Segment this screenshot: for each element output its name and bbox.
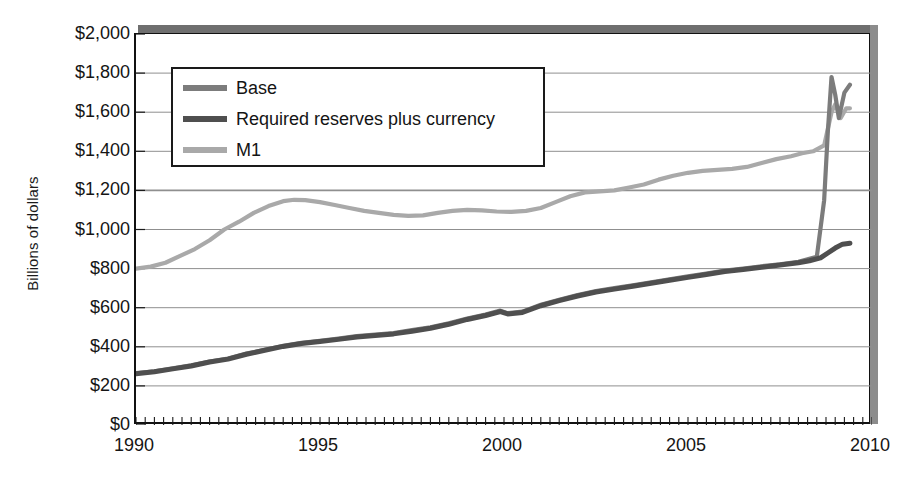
legend-item: M1 bbox=[183, 138, 261, 162]
legend-label: Base bbox=[236, 79, 277, 97]
legend-color-swatch bbox=[183, 85, 227, 91]
legend-label: M1 bbox=[236, 141, 261, 159]
legend-item: Required reserves plus currency bbox=[183, 107, 495, 131]
chart-figure: Billions of dollars $0$200$400$600$800$1… bbox=[0, 0, 903, 482]
legend-color-swatch bbox=[183, 116, 227, 122]
legend-item: Base bbox=[183, 76, 277, 100]
legend-label: Required reserves plus currency bbox=[236, 110, 495, 128]
legend-color-swatch bbox=[183, 147, 227, 153]
x-tick-label: 2005 bbox=[651, 436, 721, 454]
x-tick-label: 1990 bbox=[99, 436, 169, 454]
chart-legend: BaseRequired reserves plus currencyM1 bbox=[171, 67, 545, 167]
x-tick-label: 2010 bbox=[835, 436, 903, 454]
x-tick-label: 1995 bbox=[283, 436, 353, 454]
x-tick-label: 2000 bbox=[467, 436, 537, 454]
